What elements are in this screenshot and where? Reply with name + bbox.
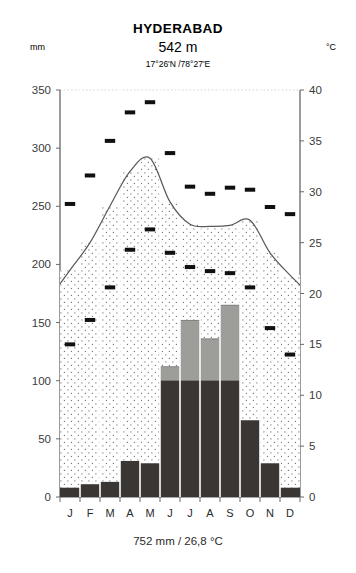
right-tick-label: 5 — [309, 440, 315, 452]
temperature-min-marker — [245, 285, 255, 289]
precipitation-bar-humid — [160, 367, 179, 381]
precipitation-bar — [120, 461, 140, 497]
right-tick-label: 25 — [309, 237, 322, 249]
right-axis-unit: °C — [326, 42, 337, 52]
temperature-min-marker — [165, 251, 175, 255]
temperature-min-marker — [185, 265, 195, 269]
month-label: M — [145, 507, 154, 519]
temperature-min-marker — [105, 285, 115, 289]
month-label: A — [126, 507, 134, 519]
left-tick-label: 200 — [32, 258, 51, 270]
temperature-min-marker — [145, 227, 155, 231]
left-tick-label: 250 — [32, 200, 51, 212]
precipitation-bar — [220, 381, 240, 497]
temperature-max-marker — [265, 205, 275, 209]
month-label: O — [246, 507, 255, 519]
temperature-min-marker — [285, 353, 295, 357]
precipitation-bar-humid — [200, 339, 219, 381]
page-title: HYDERABAD — [133, 21, 223, 36]
annual-summary-label: 752 mm / 26,8 °C — [133, 535, 223, 547]
temperature-max-marker — [185, 185, 195, 189]
left-tick-label: 150 — [32, 317, 51, 329]
right-tick-label: 35 — [309, 135, 322, 147]
precipitation-bar — [160, 381, 180, 497]
temperature-min-marker — [65, 342, 75, 346]
precipitation-bar-humid — [180, 320, 199, 380]
precipitation-bar — [140, 463, 160, 497]
coordinates-label: 17°26'N /78°27'E — [146, 59, 211, 69]
temperature-min-marker — [85, 318, 95, 322]
left-tick-label: 350 — [32, 84, 51, 96]
right-tick-label: 40 — [309, 84, 322, 96]
month-label: J — [167, 507, 173, 519]
temperature-min-marker — [225, 271, 235, 275]
temperature-max-marker — [105, 139, 115, 143]
precipitation-bar — [280, 488, 300, 497]
temperature-max-marker — [225, 186, 235, 190]
temperature-max-marker — [65, 202, 75, 206]
precipitation-bar — [60, 488, 80, 497]
precipitation-bar — [240, 420, 260, 497]
month-label: S — [226, 507, 233, 519]
right-tick-label: 10 — [309, 389, 322, 401]
elevation-label: 542 m — [159, 39, 198, 55]
temperature-max-marker — [85, 173, 95, 177]
temperature-max-marker — [125, 110, 135, 114]
temperature-max-marker — [245, 188, 255, 192]
month-label: M — [105, 507, 114, 519]
temperature-max-marker — [165, 151, 175, 155]
left-axis-unit: mm — [30, 42, 45, 52]
temperature-min-marker — [265, 326, 275, 330]
precipitation-bar-humid — [220, 305, 239, 381]
month-label: J — [67, 507, 73, 519]
month-label: A — [206, 507, 214, 519]
precipitation-bar — [260, 463, 280, 497]
right-tick-label: 15 — [309, 338, 322, 350]
precipitation-bar — [180, 381, 200, 497]
left-tick-label: 50 — [38, 433, 51, 445]
temperature-min-marker — [205, 269, 215, 273]
climate-diagram: HYDERABAD 542 m 17°26'N /78°27'E mm °C 0… — [0, 0, 356, 573]
precipitation-bar — [200, 381, 220, 497]
right-tick-label: 0 — [309, 491, 315, 503]
month-label: D — [286, 507, 294, 519]
temperature-max-marker — [145, 100, 155, 104]
temperature-max-marker — [205, 192, 215, 196]
right-tick-label: 30 — [309, 186, 322, 198]
month-label: N — [266, 507, 274, 519]
left-tick-label: 100 — [32, 375, 51, 387]
precipitation-bar — [100, 482, 120, 497]
precipitation-bar — [80, 484, 100, 497]
left-tick-label: 0 — [45, 491, 51, 503]
temperature-min-marker — [125, 248, 135, 252]
month-label: F — [87, 507, 94, 519]
right-tick-label: 20 — [309, 288, 322, 300]
temperature-max-marker — [285, 212, 295, 216]
month-label: J — [187, 507, 193, 519]
left-tick-label: 300 — [32, 142, 51, 154]
